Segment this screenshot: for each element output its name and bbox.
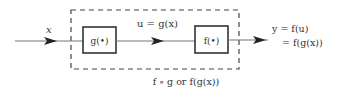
composite-label: f ∘ g or f(g(x)) xyxy=(153,76,219,87)
composition-block-diagram: x g(•) f(•) u = g(x) y = f(u) = f(g(x)) … xyxy=(0,0,342,92)
f-block-label: f(•) xyxy=(204,36,220,46)
output-label-line1: y = f(u) xyxy=(271,23,308,34)
input-label: x xyxy=(46,24,52,35)
g-block-label: g(•) xyxy=(90,36,108,46)
intermediate-label: u = g(x) xyxy=(137,18,178,29)
output-label-line2: = f(g(x)) xyxy=(282,37,323,48)
